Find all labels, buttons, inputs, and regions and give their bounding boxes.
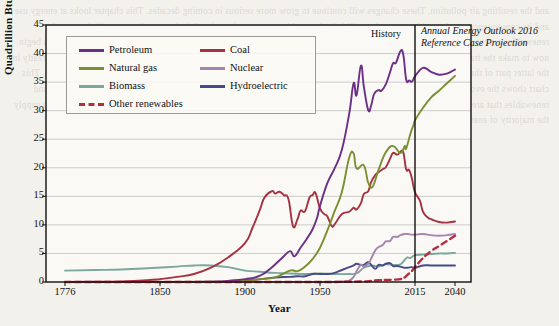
y-tick-20: 20 <box>18 161 44 172</box>
chart-legend: PetroleumNatural gasBiomassOther renewab… <box>66 36 316 114</box>
legend-item-natural-gas: Natural gas <box>79 62 157 73</box>
legend-item-biomass: Biomass <box>79 80 145 91</box>
x-tick-2040: 2040 <box>445 286 466 297</box>
legend-swatch-icon <box>79 49 104 52</box>
legend-swatch-icon <box>200 85 225 88</box>
y-tick-0: 0 <box>18 275 44 286</box>
legend-item-coal: Coal <box>200 44 250 55</box>
x-tick-1776: 1776 <box>55 286 76 297</box>
y-tick-40: 40 <box>18 47 44 58</box>
x-tick-1950: 1950 <box>310 286 331 297</box>
x-axis-label: Year <box>0 302 559 314</box>
legend-label: Nuclear <box>230 62 263 73</box>
legend-swatch-icon <box>200 49 225 52</box>
legend-label: Petroleum <box>109 44 152 55</box>
legend-swatch-icon <box>79 103 104 106</box>
legend-label: Other renewables <box>109 98 183 109</box>
y-tick-5: 5 <box>18 246 44 257</box>
history-annotation: History <box>371 28 401 39</box>
y-axis-ticks: 051015202530354045 <box>14 0 44 326</box>
energy-consumption-chart: Quadrillion Btu Year 051015202530354045 … <box>0 0 559 326</box>
y-tick-45: 45 <box>18 18 44 29</box>
legend-item-other-renewables: Other renewables <box>79 98 183 109</box>
x-tick-2015: 2015 <box>405 286 426 297</box>
projection-line-2: Reference Case Projection <box>421 37 538 49</box>
legend-label: Hydroelectric <box>230 80 288 91</box>
projection-line-1: Annual Energy Outlook 2016 <box>421 25 538 37</box>
x-tick-1900: 1900 <box>235 286 256 297</box>
legend-swatch-icon <box>200 67 225 70</box>
legend-item-nuclear: Nuclear <box>200 62 263 73</box>
legend-item-petroleum: Petroleum <box>79 44 152 55</box>
y-tick-25: 25 <box>18 132 44 143</box>
legend-swatch-icon <box>79 85 104 88</box>
legend-swatch-icon <box>79 67 104 70</box>
y-tick-35: 35 <box>18 75 44 86</box>
legend-label: Biomass <box>109 80 145 91</box>
projection-annotation: Annual Energy Outlook 2016 Reference Cas… <box>421 25 538 49</box>
y-tick-30: 30 <box>18 104 44 115</box>
x-tick-1850: 1850 <box>150 286 171 297</box>
y-tick-10: 10 <box>18 218 44 229</box>
y-axis-label: Quadrillion Btu <box>2 0 14 96</box>
legend-label: Coal <box>230 44 250 55</box>
y-tick-15: 15 <box>18 189 44 200</box>
legend-label: Natural gas <box>109 62 157 73</box>
legend-item-hydroelectric: Hydroelectric <box>200 80 288 91</box>
